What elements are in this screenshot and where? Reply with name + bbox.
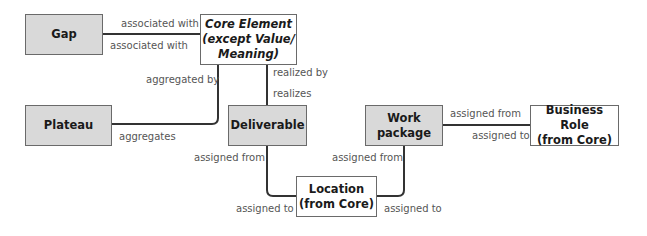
node-location[interactable]: Location (from Core) (296, 176, 377, 217)
edge-label-gap-core-top: associated with (121, 18, 199, 30)
node-gap-label: Gap (51, 27, 76, 42)
node-business-role-label-2: (from Core) (537, 133, 612, 148)
node-work-package-label-1: Work (387, 111, 421, 126)
node-business-role-label-1: Business Role (531, 103, 618, 133)
edge-label-gap-core-bottom: associated with (110, 40, 188, 52)
edge-label-workpackage-role-bottom: assigned to (472, 130, 530, 142)
edge-label-workpackage-location-bottom: assigned to (384, 203, 442, 215)
node-business-role[interactable]: Business Role (from Core) (530, 105, 619, 146)
edge-label-core-plateau-top: aggregated by (146, 74, 219, 86)
edge-label-deliverable-location-bottom: assigned to (236, 203, 294, 215)
node-deliverable[interactable]: Deliverable (228, 105, 307, 146)
node-location-label-1: Location (309, 182, 364, 197)
node-core-label-1: Core Element (205, 17, 292, 32)
node-plateau-label: Plateau (44, 118, 93, 133)
node-core-element[interactable]: Core Element (except Value/ Meaning) (200, 14, 297, 65)
node-core-label-2: (except Value/ (202, 32, 295, 47)
edge-label-core-deliverable-bottom: realizes (273, 88, 311, 100)
node-plateau[interactable]: Plateau (25, 105, 112, 146)
edge-label-core-deliverable-top: realized by (273, 67, 328, 79)
node-gap[interactable]: Gap (25, 14, 103, 55)
node-core-label-3: Meaning) (218, 47, 279, 62)
edge-label-deliverable-location-top: assigned from (194, 152, 265, 164)
edge-label-core-plateau-bottom: aggregates (119, 131, 176, 143)
node-deliverable-label: Deliverable (231, 118, 305, 133)
edge-label-workpackage-role-top: assigned from (450, 108, 521, 120)
node-work-package[interactable]: Work package (365, 105, 443, 146)
node-work-package-label-2: package (377, 126, 431, 141)
node-location-label-2: (from Core) (299, 197, 374, 212)
edge-label-workpackage-location-top: assigned from (332, 152, 403, 164)
